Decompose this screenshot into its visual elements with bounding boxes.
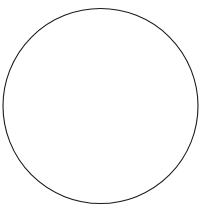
geometry-svg — [0, 0, 205, 213]
geometry-figure-canvas — [0, 0, 205, 213]
canvas-background — [0, 0, 205, 213]
